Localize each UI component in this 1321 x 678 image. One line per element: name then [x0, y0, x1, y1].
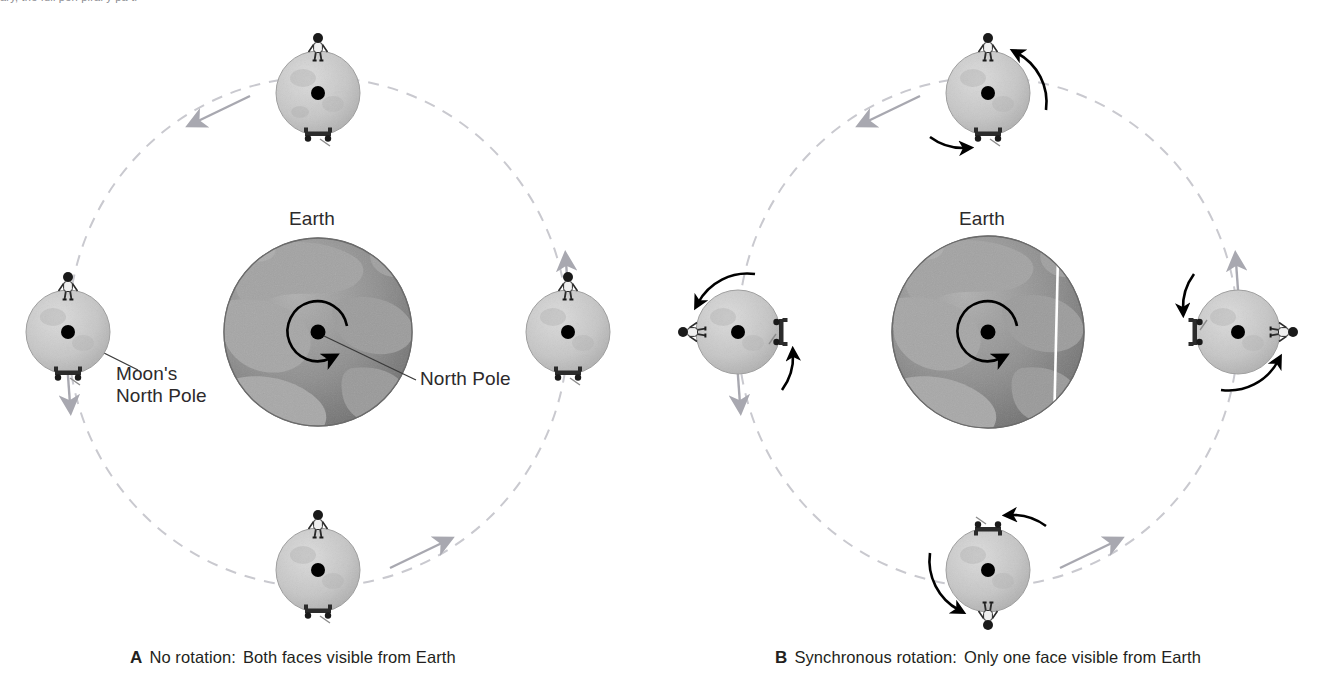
moon-b-bottom — [929, 515, 1046, 630]
earth-a — [219, 234, 415, 441]
panel-a-caption-main: No rotation: — [149, 648, 236, 666]
moon-b-right — [1183, 274, 1298, 391]
orbit-arrow-b-3 — [1060, 542, 1114, 568]
panel-b-group — [678, 33, 1298, 630]
moon-pole-dot — [311, 86, 325, 100]
earth-label-b: Earth — [959, 208, 1005, 230]
moons-north-pole-label-line1: Moon's — [116, 363, 177, 384]
moon-a-right — [526, 272, 610, 385]
panel-b-caption: BSynchronous rotation:Only one face visi… — [775, 648, 1201, 668]
moon-rotation-arrow — [1010, 515, 1046, 526]
earth-b — [889, 232, 1085, 441]
earth-b-north-pole-dot — [981, 325, 996, 340]
moon-rotation-arrow — [1183, 274, 1194, 310]
figure-canvas: ary, the full peri piral y pa ti — [0, 0, 1321, 678]
moon-pole-dot — [981, 86, 995, 100]
panel-a-group — [26, 33, 610, 623]
orbit-arrow-a-1 — [196, 96, 250, 122]
orbit-arrow-b-1 — [866, 96, 920, 122]
moon-rotation-arrow — [782, 354, 793, 390]
moon-pole-dot — [1231, 325, 1245, 339]
diagram-svg — [0, 0, 1321, 678]
moons-north-pole-label-line2: North Pole — [116, 385, 207, 406]
moon-a-bottom — [276, 510, 360, 623]
panel-a-caption-detail: Both faces visible from Earth — [243, 648, 456, 666]
panel-a-caption: ANo rotation:Both faces visible from Ear… — [130, 648, 456, 668]
earth-label-a: Earth — [289, 208, 335, 230]
panel-a-letter: A — [130, 648, 142, 667]
orbit-arrow-a-3 — [390, 542, 444, 568]
moon-pole-dot — [61, 325, 75, 339]
moon-a-top — [276, 33, 360, 146]
moon-b-top — [930, 33, 1047, 148]
moons-north-pole-label: Moon's North Pole — [116, 363, 207, 407]
earth-a-north-pole-dot — [311, 325, 326, 340]
moon-a-left — [26, 272, 110, 385]
moon-pole-dot — [981, 563, 995, 577]
moon-pole-dot — [731, 325, 745, 339]
north-pole-label: North Pole — [420, 368, 511, 390]
moon-rotation-arrow — [930, 137, 966, 148]
panel-b-letter: B — [775, 648, 787, 667]
moon-pole-dot — [311, 563, 325, 577]
panel-b-caption-main: Synchronous rotation: — [794, 648, 957, 666]
moon-pole-dot — [561, 325, 575, 339]
moon-b-left — [678, 273, 793, 390]
panel-b-caption-detail: Only one face visible from Earth — [964, 648, 1201, 666]
